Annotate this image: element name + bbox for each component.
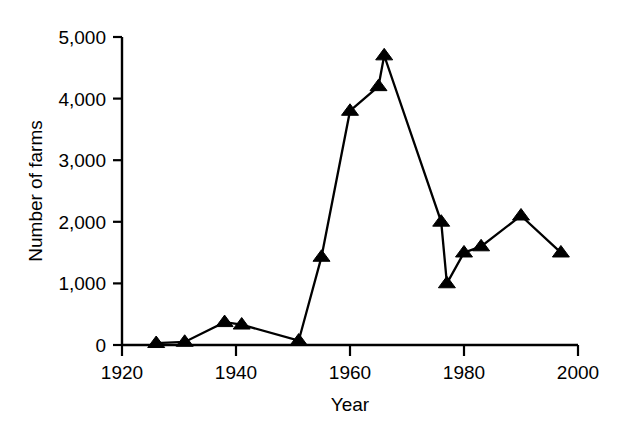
data-point-marker [216,315,233,327]
data-point-markers [148,48,570,347]
y-tick-label-2000: 2,000 [58,212,106,233]
data-point-marker [176,335,193,347]
data-point-marker [376,48,393,60]
y-axis-tick-labels: 0 1,000 2,000 3,000 4,000 5,000 [58,27,106,356]
data-point-marker [313,250,330,262]
y-tick-label-5000: 5,000 [58,27,106,48]
x-tick-label-1940: 1940 [215,362,257,383]
x-tick-label-1980: 1980 [443,362,485,383]
data-point-marker [433,215,450,227]
x-tick-label-1920: 1920 [101,362,143,383]
y-axis-title: Number of farms [25,120,46,261]
plot-area [113,37,578,356]
y-tick-label-4000: 4,000 [58,89,106,110]
x-axis-tick-labels: 1920 1940 1960 1980 2000 [101,362,599,383]
y-tick-label-3000: 3,000 [58,150,106,171]
x-tick-label-1960: 1960 [329,362,371,383]
x-axis-title: Year [331,394,370,415]
x-tick-label-2000: 2000 [557,362,599,383]
y-tick-label-0: 0 [95,335,106,356]
data-series-line [156,55,561,343]
chart-canvas: 0 1,000 2,000 3,000 4,000 5,000 1920 194… [0,0,617,424]
y-tick-label-1000: 1,000 [58,273,106,294]
line-chart-figure: 0 1,000 2,000 3,000 4,000 5,000 1920 194… [0,0,617,424]
y-axis-ticks [113,37,122,345]
data-point-marker [438,276,455,288]
data-point-marker [370,79,387,91]
data-point-marker [513,209,530,221]
